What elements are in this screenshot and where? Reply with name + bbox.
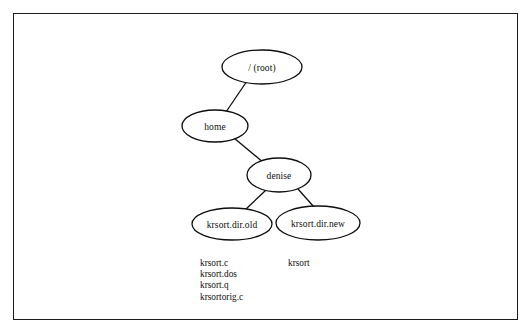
krsort-dir-old-files: krsort.ckrsort.doskrsort.qkrsortorig.c (200, 258, 243, 303)
file-list-item: krsortorig.c (200, 292, 243, 303)
tree-node-label-denise: denise (267, 171, 292, 181)
file-list-item: krsort (288, 258, 310, 269)
node-layer (182, 50, 360, 240)
directory-tree-diagram (0, 0, 531, 334)
file-list-item: krsort.dos (200, 269, 243, 280)
tree-edge-denise-to-krsort_dir_old (245, 190, 266, 210)
tree-edge-home-to-denise (234, 138, 264, 163)
tree-node-label-home: home (204, 122, 226, 132)
tree-node-label-root: / (root) (248, 63, 275, 73)
tree-node-label-krsort_dir_old: krsort.dir.old (207, 220, 257, 230)
krsort-dir-new-files: krsort (288, 258, 310, 269)
file-list-item: krsort.c (200, 258, 243, 269)
tree-edge-denise-to-krsort_dir_new (298, 189, 314, 207)
file-list-item: krsort.q (200, 280, 243, 291)
tree-node-label-krsort_dir_new: krsort.dir.new (291, 219, 345, 229)
tree-edge-root-to-home (226, 81, 247, 112)
